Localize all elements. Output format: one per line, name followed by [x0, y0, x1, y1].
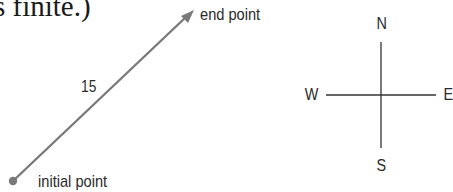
compass-east-label: E: [444, 86, 453, 104]
magnitude-label: 15: [81, 78, 96, 96]
initial-point-label: initial point: [38, 172, 107, 192]
compass-south-label: S: [377, 157, 387, 175]
vector-line: [13, 17, 186, 181]
compass-west-label: W: [305, 86, 319, 104]
end-point-label: end point: [200, 5, 260, 25]
initial-point-dot: [9, 177, 17, 185]
compass-north-label: N: [377, 15, 387, 33]
